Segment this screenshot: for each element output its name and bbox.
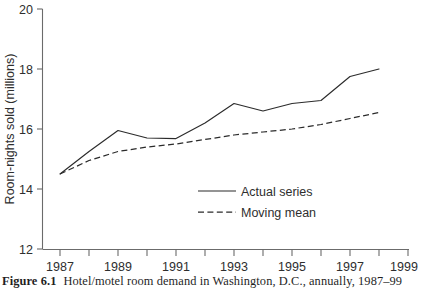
y-tick-label-12: 12 — [19, 243, 33, 257]
x-tick-label-1987: 1987 — [46, 260, 74, 272]
figure-caption-label: Figure 6.1 — [2, 274, 56, 288]
y-axis-ticks — [37, 9, 43, 249]
y-tick-label-20: 20 — [19, 3, 33, 17]
series-line-moving-mean — [60, 113, 379, 175]
chart-legend: Actual series Moving mean — [198, 185, 316, 220]
y-tick-label-14: 14 — [19, 183, 33, 197]
legend-label-moving-mean: Moving mean — [241, 206, 316, 220]
y-axis: 20 18 16 14 12 Room-nights sold (million… — [3, 3, 43, 257]
legend-label-actual: Actual series — [241, 185, 313, 199]
x-axis-tick-labels: 1987 1989 1991 1993 1995 1997 1999 — [46, 260, 418, 272]
x-tick-label-1997: 1997 — [336, 260, 364, 272]
x-axis-ticks — [60, 250, 408, 257]
figure-caption: Figure 6.1Hotel/motel room demand in Was… — [2, 274, 420, 289]
x-tick-label-1993: 1993 — [220, 260, 248, 272]
x-tick-label-1999: 1999 — [390, 260, 418, 272]
y-axis-tick-labels: 20 18 16 14 12 — [19, 3, 33, 257]
x-tick-label-1991: 1991 — [162, 260, 190, 272]
figure-caption-text: Hotel/motel room demand in Washington, D… — [63, 274, 402, 288]
line-chart: 20 18 16 14 12 Room-nights sold (million… — [0, 0, 422, 272]
x-tick-label-1989: 1989 — [104, 260, 132, 272]
x-axis: 1987 1989 1991 1993 1995 1997 1999 — [43, 250, 418, 273]
figure-container: 20 18 16 14 12 Room-nights sold (million… — [0, 0, 422, 293]
y-axis-title: Room-nights sold (millions) — [3, 54, 17, 205]
x-tick-label-1995: 1995 — [278, 260, 306, 272]
y-tick-label-16: 16 — [19, 123, 33, 137]
series-group — [60, 69, 379, 174]
series-line-actual — [60, 69, 379, 174]
y-tick-label-18: 18 — [19, 63, 33, 77]
